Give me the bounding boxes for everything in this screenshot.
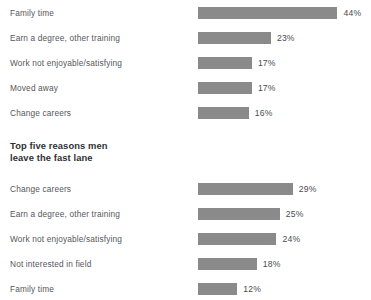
bar-row: Earn a degree, other training23% [0,25,371,50]
bar-row: Earn a degree, other training25% [0,201,371,226]
women-value-label: 16% [255,108,273,118]
bar-row: Change careers29% [0,176,371,201]
bar-track: 16% [198,107,371,119]
bar-track: 44% [198,7,371,19]
bar-row: Family time44% [0,0,371,25]
men-bar [198,183,293,195]
section-heading: Top five reasons men leave the fast lane [10,140,108,165]
men-category-label: Not interested in field [10,259,91,269]
men-bar [198,233,276,245]
women-bar [198,7,337,19]
men-bar [198,283,237,295]
bar-track: 23% [198,32,371,44]
women-bar [198,107,249,119]
women-bar [198,57,252,69]
women-category-label: Earn a degree, other training [10,33,120,43]
women-bar [198,32,271,44]
men-bar [198,208,280,220]
women-value-label: 44% [343,8,361,18]
men-value-label: 18% [263,259,281,269]
women-value-label: 17% [258,83,276,93]
bar-row: Work not enjoyable/satisfying17% [0,50,371,75]
women-category-label: Family time [10,8,54,18]
bar-row: Change careers16% [0,100,371,125]
men-category-label: Work not enjoyable/satisfying [10,234,122,244]
women-category-label: Change careers [10,108,71,118]
bar-chart-men: Change careers29%Earn a degree, other tr… [0,176,371,300]
bar-track: 12% [198,283,371,295]
women-value-label: 23% [277,33,295,43]
bar-track: 29% [198,183,371,195]
men-value-label: 12% [243,284,261,294]
bar-track: 18% [198,258,371,270]
bar-chart-women: Family time44%Earn a degree, other train… [0,0,371,125]
bar-row: Work not enjoyable/satisfying24% [0,226,371,251]
bar-track: 17% [198,82,371,94]
bar-track: 25% [198,208,371,220]
men-value-label: 24% [282,234,300,244]
men-value-label: 25% [286,209,304,219]
bar-row: Moved away17% [0,75,371,100]
women-bar [198,82,252,94]
men-category-label: Earn a degree, other training [10,209,120,219]
men-bar [198,258,257,270]
men-category-label: Family time [10,284,54,294]
bar-row: Family time12% [0,276,371,300]
men-value-label: 29% [299,184,317,194]
bar-track: 24% [198,233,371,245]
men-category-label: Change careers [10,184,71,194]
bar-track: 17% [198,57,371,69]
bar-row: Not interested in field18% [0,251,371,276]
women-category-label: Work not enjoyable/satisfying [10,58,122,68]
women-value-label: 17% [258,58,276,68]
women-category-label: Moved away [10,83,58,93]
